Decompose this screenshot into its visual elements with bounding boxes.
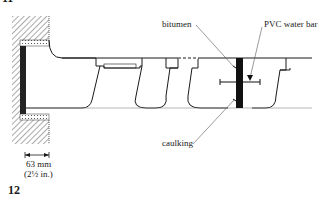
rib-1-panel <box>104 64 136 68</box>
wall-section <box>12 16 49 144</box>
bitumen-leader <box>196 25 234 67</box>
figure-number-top: 11 <box>2 0 13 4</box>
rib-3 <box>188 58 228 108</box>
pvc-arrowhead <box>247 75 253 81</box>
dimension-metric: 63 mm <box>26 160 51 169</box>
joint-filler <box>236 58 243 108</box>
slab-profile <box>26 40 312 108</box>
sealant-strip <box>20 46 26 114</box>
label-bitumen: bitumen <box>162 20 192 29</box>
rib-3-right <box>252 58 286 108</box>
label-pvc-water-bar: PVC water bar <box>264 20 318 29</box>
rib-1 <box>96 58 142 68</box>
dimension-imperial: (2½ in.) <box>24 170 53 179</box>
rib-3-step <box>280 68 290 70</box>
dim-arrow-right <box>44 153 49 157</box>
joint-detail <box>220 58 260 108</box>
dimension-line <box>25 152 49 158</box>
leader-lines <box>193 25 262 144</box>
filler-top <box>20 40 49 46</box>
pvc-leader <box>250 27 262 78</box>
label-caulking: caulking <box>162 139 193 148</box>
slab-left-end <box>49 40 96 58</box>
dim-arrow-left <box>25 153 30 157</box>
figure-number: 12 <box>8 184 20 196</box>
caulking-leader <box>193 100 234 144</box>
filler-bottom <box>20 114 49 120</box>
rib-2-step <box>166 58 178 68</box>
